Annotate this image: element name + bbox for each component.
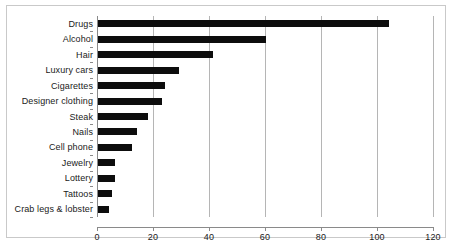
tick-mark-80 [321,227,322,231]
x-tick-label: 100 [369,232,385,242]
bar [98,98,162,105]
category-tick [90,78,93,79]
tick-mark-120 [433,227,434,231]
category-label: Hair [76,50,93,60]
tick-mark-100 [377,227,378,231]
bar [98,190,112,197]
gridline-40 [209,16,210,217]
tick-mark-0 [97,227,98,231]
category-label: Jewelry [62,158,93,168]
bar [98,51,213,58]
category-tick [90,140,93,141]
gridline-120 [433,16,434,217]
bar [98,128,137,135]
gridline-100 [377,16,378,217]
category-tick [90,109,93,110]
chart-screenshot: DrugsAlcoholHairLuxury carsCigarettesDes… [0,0,452,244]
gridline-80 [321,16,322,217]
category-label: Drugs [68,19,93,29]
category-tick [90,202,93,203]
category-label: Steak [69,112,93,122]
category-tick [90,62,93,63]
bar [98,36,266,43]
x-tick-label: 80 [316,232,326,242]
category-tick [90,171,93,172]
x-tick-label: 120 [425,232,441,242]
category-label: Luxury cars [45,65,93,75]
bar [98,67,179,74]
bar [98,113,148,120]
category-axis-labels: DrugsAlcoholHairLuxury carsCigarettesDes… [13,16,93,217]
x-tick-label: 20 [148,232,158,242]
x-tick-label: 0 [94,232,99,242]
category-tick [90,124,93,125]
chart-frame: DrugsAlcoholHairLuxury carsCigarettesDes… [6,5,446,238]
category-tick [90,93,93,94]
category-label: Lottery [65,173,93,183]
category-tick [90,47,93,48]
plot-area: 020406080100120 [97,16,433,217]
bar [98,20,389,27]
category-tick [90,155,93,156]
category-label: Nails [72,127,93,137]
category-label: Alcohol [63,34,93,44]
category-label: Cigarettes [51,81,93,91]
category-tick [90,31,93,32]
category-tick [90,217,93,218]
tick-mark-60 [265,227,266,231]
bar [98,175,115,182]
tick-mark-20 [153,227,154,231]
bar [98,159,115,166]
x-tick-label: 40 [204,232,214,242]
bar [98,206,109,213]
category-label: Cell phone [49,142,93,152]
gridline-60 [265,16,266,217]
tick-mark-40 [209,227,210,231]
bar [98,82,165,89]
category-tick [90,186,93,187]
x-tick-label: 60 [260,232,270,242]
bar [98,144,132,151]
category-label: Crab legs & lobster [15,204,93,214]
category-label: Designer clothing [22,96,93,106]
category-label: Tattoos [63,189,93,199]
gridline-20 [153,16,154,217]
